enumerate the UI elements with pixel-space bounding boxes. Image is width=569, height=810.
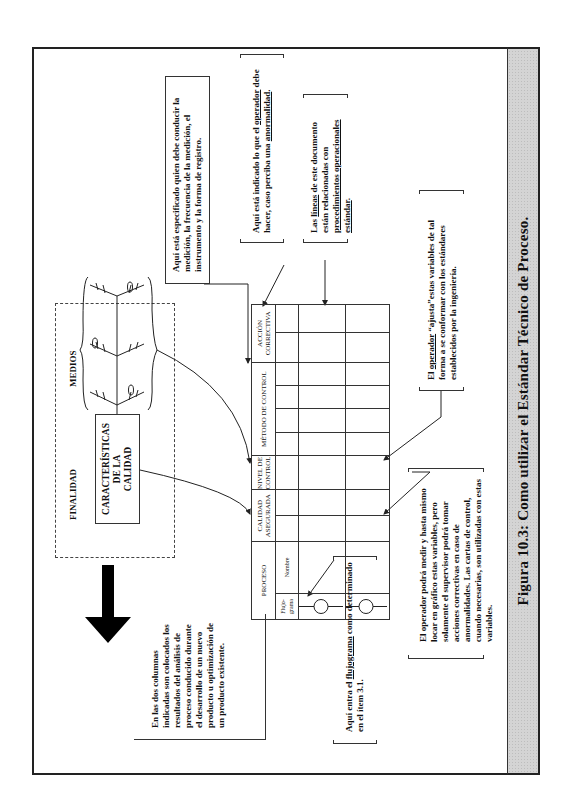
bracket-end [419,190,464,194]
cell [276,333,299,362]
cell [346,385,390,409]
text: Aquí está indicado lo que el [251,125,261,233]
cell [276,516,299,542]
cell [346,490,390,516]
header-proceso: PROCESO [252,541,276,619]
bracket-end [333,556,377,560]
table-row [299,305,346,620]
cell [346,456,390,490]
cell [276,456,299,490]
cell [346,516,390,542]
underlined-text: operador [426,334,436,369]
flowchart-cell [299,594,346,620]
callout-corrective-action: Aquí está indicado lo que el operador de… [251,61,273,233]
bracket-end [333,740,377,744]
bracket-end [419,387,464,391]
underlined-text: operador [251,90,261,125]
cell [346,362,390,385]
process-standard-table: PROCESO CALIDAD ASEGURADA NIVEL DE CONTR… [251,304,390,620]
bracket-end [240,54,284,58]
cell [299,362,346,385]
callout-operator-adjusts: El operador “ajusta”estas variables de t… [426,197,459,380]
cell [299,409,346,433]
cell [276,362,299,385]
header-metodo-de-control: MÉTODO DE CONTROL [252,362,276,456]
text: Aquí entra el [344,679,354,732]
cell [276,305,299,334]
bracket-end [303,94,348,98]
cell [346,333,390,362]
cell [276,409,299,433]
cell [299,456,346,490]
bracket-end [408,655,484,659]
underlined-text: procedimientos operacionales estándar [331,119,352,233]
cell [299,305,346,334]
callout-flowchart: Aquí entra el flujograma como determinad… [344,562,366,732]
fishbone-diagram-icon [80,277,157,414]
cell [346,305,390,334]
subheader-flujograma: Flujo-grama [276,594,299,620]
cell [276,385,299,409]
callout-columns: En las dos columnas indicadas son coloca… [150,616,227,728]
arrow-up-icon [85,565,131,643]
text: . [342,198,352,200]
underlined-text: líneas [309,195,319,217]
callout-supervisor: El operador podrá medir y hasta mismo lo… [418,472,495,642]
figure-canvas: Figura 10.3: Como utilizar el Estándar T… [0,0,569,810]
cell [299,541,346,593]
cell [299,516,346,542]
bracket-end [165,76,210,80]
cell [276,490,299,516]
cell [299,385,346,409]
callout-document-lines: Las líneas de este documento están relac… [309,101,353,233]
cell [299,490,346,516]
cell [346,409,390,433]
bracket-end [303,239,348,243]
header-accion-correctiva: ACCIÓN CORRECTIVA [252,305,276,363]
cell [276,432,299,456]
cell [299,432,346,456]
flowchart-circle-icon [299,594,343,619]
underlined-text: anormalidad [262,92,272,142]
cell [346,432,390,456]
callout-measurement: Aquí está especificado quien debe conduc… [171,82,204,272]
text: . [262,89,272,91]
text: El [426,369,436,380]
subheader-nombre: Nombre [276,541,299,593]
underlined-text: flujograma [344,636,354,679]
text: Las [309,217,319,233]
bracket-end [165,280,210,284]
bracket-end [240,239,284,243]
header-nivel-de-control: NIVEL DE CONTROL [252,456,276,490]
cell [299,333,346,362]
header-calidad-asegurada: CALIDAD ASEGURADA [252,490,276,541]
